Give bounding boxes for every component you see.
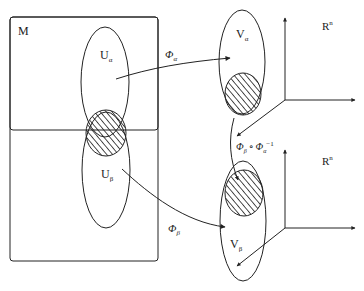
overlap-region-v-beta <box>225 170 263 216</box>
phi-beta-arrow <box>122 169 225 227</box>
bottom-axis-depth <box>237 228 285 266</box>
manifold-label: M <box>18 24 29 38</box>
phi-alpha-label: Φα <box>165 48 177 63</box>
u-alpha-label: Uα <box>100 48 113 64</box>
v-alpha-label: Vα <box>236 27 249 43</box>
bottom-rn-label: Rn <box>322 154 333 167</box>
manifold-chart-diagram: M Uα Uβ Φα Φβ Vα Rn Φβ∘Φα−1 Vβ Rn <box>0 0 364 291</box>
phi-beta-label: Φβ <box>168 222 180 237</box>
v-beta-label: Vβ <box>230 237 243 253</box>
top-rn-label: Rn <box>322 19 333 32</box>
transition-label: Φβ∘Φα−1 <box>236 140 274 154</box>
overlap-region-m <box>86 110 126 156</box>
u-beta-label: Uβ <box>101 167 114 183</box>
overlap-region-v-alpha <box>225 73 261 115</box>
